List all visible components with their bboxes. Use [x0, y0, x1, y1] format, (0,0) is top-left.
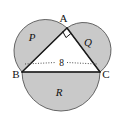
label-side-length-bc: 8 [59, 58, 64, 68]
label-region-p: P [28, 31, 36, 43]
geometry-figure: A B C P Q R 8 [0, 0, 121, 127]
diagram-canvas: A B C P Q R 8 [0, 0, 121, 127]
label-vertex-a: A [60, 12, 68, 24]
label-vertex-b: B [12, 68, 19, 80]
label-vertex-c: C [102, 68, 109, 80]
label-region-r: R [55, 86, 63, 98]
label-region-q: Q [84, 36, 92, 48]
